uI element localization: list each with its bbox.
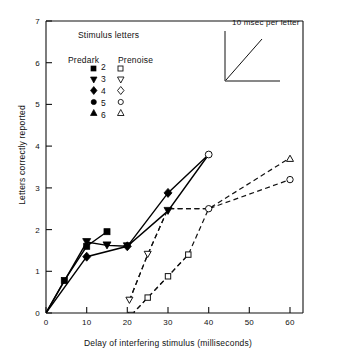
series-3-prenoise <box>129 209 208 301</box>
legend-label-4: 4 <box>101 86 106 96</box>
y-tick-4: 4 <box>28 142 40 151</box>
chart-canvas <box>0 0 349 360</box>
y-tick-5: 5 <box>28 100 40 109</box>
y-tick-0: 0 <box>28 309 40 318</box>
x-axis-ticks <box>46 307 290 313</box>
legend-square-open-icon <box>118 66 123 71</box>
series-6-prenoise <box>129 158 290 301</box>
legend-circle-filled-icon <box>91 99 96 104</box>
legend-markers <box>88 64 140 126</box>
legend-square-filled-icon <box>91 66 96 71</box>
legend-diamond-filled-icon <box>91 87 98 95</box>
legend-triangle-up-open-icon <box>118 110 125 116</box>
y-axis-ticks <box>46 21 52 313</box>
x-tick-0: 0 <box>44 318 49 327</box>
x-tick-10: 10 <box>82 318 91 327</box>
x-tick-60: 60 <box>285 318 294 327</box>
y-tick-7: 7 <box>28 17 40 26</box>
y-tick-2: 2 <box>28 225 40 234</box>
legend-triangle-down-filled-icon <box>91 77 98 83</box>
legend-triangle-down-open-icon <box>118 77 125 83</box>
slope-key <box>225 31 280 81</box>
legend-circle-open-icon <box>118 99 123 104</box>
legend-title: Stimulus letters <box>78 30 139 40</box>
x-tick-40: 40 <box>204 318 213 327</box>
y-axis-label: Letters correctly reported <box>17 95 27 215</box>
legend-label-6: 6 <box>101 110 106 120</box>
series-5-prenoise <box>131 180 290 316</box>
x-tick-20: 20 <box>123 318 132 327</box>
figure-chart: Letters correctly reported Delay of inte… <box>0 0 349 360</box>
x-axis-label: Delay of interfering stimulus (milliseco… <box>46 338 290 348</box>
legend-label-2: 2 <box>101 62 106 72</box>
x-tick-30: 30 <box>163 318 172 327</box>
slope-annotation-label: 10 msec per letter <box>232 18 300 27</box>
legend-label-3: 3 <box>101 74 106 84</box>
markers-prenoise-open <box>126 151 294 318</box>
legend-triangle-up-filled-icon <box>91 110 98 116</box>
y-tick-1: 1 <box>28 267 40 276</box>
y-tick-6: 6 <box>28 58 40 67</box>
x-tick-50: 50 <box>245 318 254 327</box>
legend-label-5: 5 <box>101 98 106 108</box>
y-tick-3: 3 <box>28 183 40 192</box>
series-4-predark <box>46 155 209 314</box>
legend-diamond-open-icon <box>118 87 125 95</box>
